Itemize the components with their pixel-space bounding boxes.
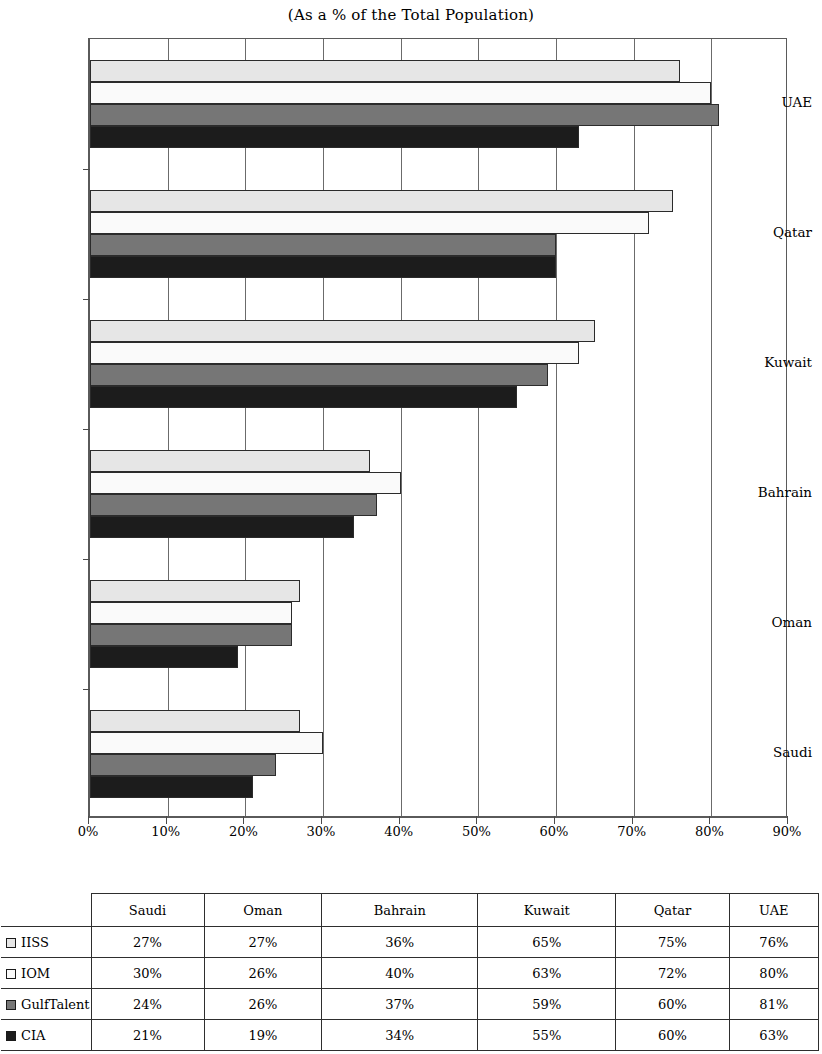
table-corner-cell — [1, 894, 91, 927]
x-axis-tick — [243, 816, 244, 824]
x-axis-tick — [554, 816, 555, 824]
table-row: GulfTalent24%26%37%59%60%81% — [1, 989, 819, 1020]
bar-cia-qatar — [90, 256, 556, 278]
legend-label: IISS — [21, 935, 49, 950]
legend-item-gulftalent: GulfTalent — [1, 989, 91, 1020]
bar-cia-kuwait — [90, 386, 517, 408]
x-axis-tick — [321, 816, 322, 824]
table-cell: 65% — [478, 927, 616, 958]
bar-iiss-oman — [90, 580, 300, 602]
table-cell: 24% — [91, 989, 204, 1020]
bar-group — [90, 169, 786, 299]
x-tick-label: 10% — [151, 824, 180, 839]
bar-group — [90, 429, 786, 559]
table-header-row: SaudiOmanBahrainKuwaitQatarUAE — [1, 894, 819, 927]
table-col-header-saudi: Saudi — [91, 894, 204, 927]
table-cell: 60% — [616, 989, 729, 1020]
table-cell: 19% — [204, 1020, 322, 1051]
bar-gulftalent-kuwait — [90, 364, 548, 386]
table-body: IISS27%27%36%65%75%76%IOM30%26%40%63%72%… — [1, 927, 819, 1051]
bar-gulftalent-bahrain — [90, 494, 377, 516]
category-label-bahrain: Bahrain — [738, 484, 822, 500]
table-cell: 80% — [729, 958, 818, 989]
x-tick-label: 30% — [307, 824, 336, 839]
x-tick-label: 50% — [462, 824, 491, 839]
y-axis-tick — [83, 169, 90, 170]
x-tick-label: 80% — [695, 824, 724, 839]
legend-swatch-icon — [6, 969, 16, 979]
y-axis-tick — [83, 559, 90, 560]
table-row: CIA21%19%34%55%60%63% — [1, 1020, 819, 1051]
y-axis-tick — [83, 429, 90, 430]
y-axis-tick — [83, 689, 90, 690]
x-tick-label: 60% — [540, 824, 569, 839]
table-col-header-oman: Oman — [204, 894, 322, 927]
legend-item-cia: CIA — [1, 1020, 91, 1051]
bar-iom-uae — [90, 82, 711, 104]
bar-iom-qatar — [90, 212, 649, 234]
legend-label: IOM — [21, 966, 50, 981]
bar-iiss-bahrain — [90, 450, 370, 472]
legend-item-iiss: IISS — [1, 927, 91, 958]
table-col-header-qatar: Qatar — [616, 894, 729, 927]
table-cell: 59% — [478, 989, 616, 1020]
bar-iiss-qatar — [90, 190, 673, 212]
bar-group — [90, 39, 786, 169]
bar-cia-uae — [90, 126, 579, 148]
bar-iiss-uae — [90, 60, 680, 82]
bar-iiss-kuwait — [90, 320, 595, 342]
bar-gulftalent-uae — [90, 104, 719, 126]
bar-gulftalent-saudi — [90, 754, 276, 776]
x-axis-tick — [166, 816, 167, 824]
table-cell: 27% — [204, 927, 322, 958]
table-cell: 21% — [91, 1020, 204, 1051]
table-cell: 75% — [616, 927, 729, 958]
x-axis-tick — [787, 816, 788, 824]
legend-item-iom: IOM — [1, 958, 91, 989]
table-row: IISS27%27%36%65%75%76% — [1, 927, 819, 958]
table-cell: 30% — [91, 958, 204, 989]
legend-label: CIA — [21, 1028, 45, 1043]
data-table: SaudiOmanBahrainKuwaitQatarUAE IISS27%27… — [1, 893, 819, 1051]
table-cell: 63% — [478, 958, 616, 989]
table-cell: 60% — [616, 1020, 729, 1051]
category-label-kuwait: Kuwait — [738, 354, 822, 370]
bar-iom-oman — [90, 602, 292, 624]
legend-label: GulfTalent — [21, 997, 90, 1012]
bar-cia-oman — [90, 646, 238, 668]
table-cell: 72% — [616, 958, 729, 989]
table-cell: 26% — [204, 958, 322, 989]
x-axis-tick — [632, 816, 633, 824]
category-label-oman: Oman — [738, 614, 822, 630]
legend-swatch-icon — [6, 1000, 16, 1010]
table-cell: 40% — [322, 958, 478, 989]
plot-area — [88, 38, 787, 818]
x-tick-label: 90% — [773, 824, 802, 839]
bar-iiss-saudi — [90, 710, 300, 732]
table-col-header-kuwait: Kuwait — [478, 894, 616, 927]
x-axis-tick — [709, 816, 710, 824]
table-col-header-uae: UAE — [729, 894, 818, 927]
bar-iom-kuwait — [90, 342, 579, 364]
category-label-saudi: Saudi — [738, 744, 822, 760]
table-cell: 34% — [322, 1020, 478, 1051]
table-cell: 37% — [322, 989, 478, 1020]
table-cell: 36% — [322, 927, 478, 958]
x-axis-tick — [88, 816, 89, 824]
bar-group — [90, 559, 786, 689]
bar-iom-saudi — [90, 732, 323, 754]
bar-cia-saudi — [90, 776, 253, 798]
bar-group — [90, 689, 786, 819]
x-axis-tick — [476, 816, 477, 824]
x-axis-labels: 0%10%20%30%40%50%60%70%80%90% — [0, 824, 822, 852]
x-tick-label: 20% — [229, 824, 258, 839]
x-tick-label: 70% — [617, 824, 646, 839]
x-tick-label: 40% — [384, 824, 413, 839]
table-cell: 81% — [729, 989, 818, 1020]
x-tick-label: 0% — [78, 824, 99, 839]
table-cell: 63% — [729, 1020, 818, 1051]
bar-cia-bahrain — [90, 516, 354, 538]
legend-swatch-icon — [6, 938, 16, 948]
category-label-uae: UAE — [738, 94, 822, 110]
bar-iom-bahrain — [90, 472, 401, 494]
